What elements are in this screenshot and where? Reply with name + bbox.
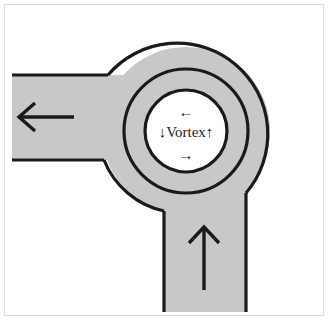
island-label-up-arrow: ↑ [206, 124, 214, 140]
figure-frame: ← ↓Vortex↑ → [0, 0, 330, 322]
roundabout-diagram: ← ↓Vortex↑ → [0, 0, 330, 322]
island-label-text: Vortex [166, 124, 206, 140]
island-center-label: ↓Vortex↑ [159, 124, 214, 140]
island-label-down-arrow: ↓ [159, 124, 167, 140]
island-top-arrow: ← [179, 104, 194, 120]
island-bottom-arrow: → [179, 147, 194, 163]
